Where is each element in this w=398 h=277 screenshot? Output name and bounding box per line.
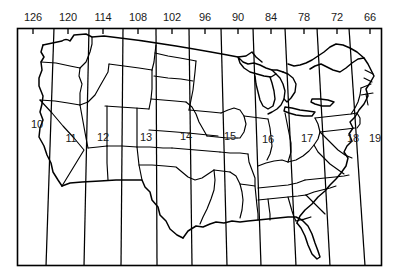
zone-label-16: 16 (256, 134, 280, 145)
longitude-tick-label: 102 (157, 12, 187, 23)
utm-zone-map-figure: 126 120 114 108 102 96 90 84 78 72 66 (0, 0, 398, 277)
longitude-tick-label: 78 (289, 12, 319, 23)
zone-label-15: 15 (218, 131, 242, 142)
zone-label-18: 18 (341, 133, 365, 144)
longitude-tick-label: 108 (123, 12, 153, 23)
longitude-tick-label: 114 (88, 12, 118, 23)
zone-label-13: 13 (134, 132, 158, 143)
longitude-tick-label: 72 (322, 12, 352, 23)
longitude-tick-label: 96 (190, 12, 220, 23)
longitude-axis: 126 120 114 108 102 96 90 84 78 72 66 (0, 0, 398, 28)
longitude-tick-label: 84 (256, 12, 286, 23)
zone-label-17: 17 (295, 133, 319, 144)
longitude-tick-label: 126 (18, 12, 48, 23)
longitude-tick-label: 120 (53, 12, 83, 23)
zone-label-11: 11 (59, 133, 83, 144)
longitude-tick-label: 90 (223, 12, 253, 23)
zone-label-14: 14 (174, 131, 198, 142)
zone-label-10: 10 (25, 119, 49, 130)
map-frame (18, 29, 382, 266)
zone-label-19: 19 (363, 133, 387, 144)
longitude-tick-label: 66 (355, 12, 385, 23)
zone-label-12: 12 (91, 132, 115, 143)
